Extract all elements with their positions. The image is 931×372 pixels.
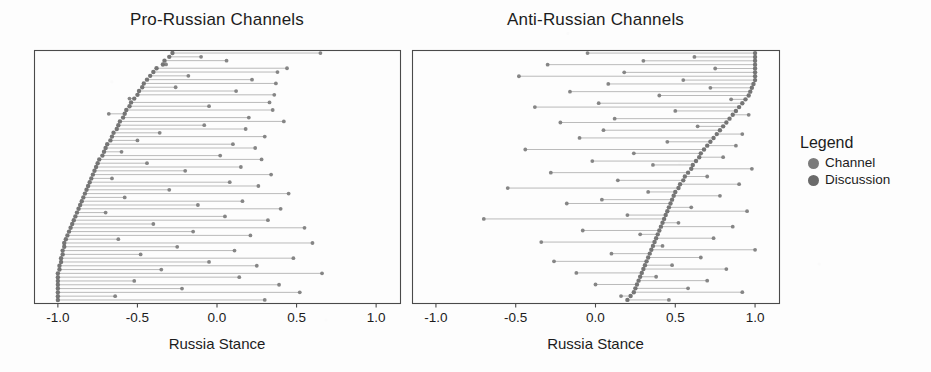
legend-dot-discussion-icon: [808, 175, 819, 186]
figure-canvas: Pro-Russian Channels Anti-Russian Channe…: [0, 0, 931, 372]
x-tick-label: 0.0: [586, 310, 605, 325]
legend-label-discussion: Discussion: [825, 172, 890, 188]
legend-label-channel: Channel: [825, 155, 875, 171]
legend-title: Legend: [800, 134, 925, 152]
legend-dot-channel-icon: [808, 158, 819, 169]
x-tick-label: -1.0: [46, 310, 69, 325]
x-tick-label: -0.5: [126, 310, 149, 325]
x-tick-label: 1.0: [746, 310, 765, 325]
x-tick-label: -1.0: [424, 310, 447, 325]
x-tick-label: 0.5: [666, 310, 685, 325]
x-tick-label: 0.0: [208, 310, 227, 325]
legend: Legend Channel Discussion: [800, 134, 925, 189]
x-tick-label: 1.0: [367, 310, 386, 325]
x-tick-label: -0.5: [504, 310, 527, 325]
x-axis-label-left: Russia Stance: [34, 335, 400, 352]
x-tick-label: 0.5: [287, 310, 306, 325]
x-axis-label-right: Russia Stance: [412, 335, 779, 352]
legend-item-channel: Channel: [808, 155, 925, 171]
legend-item-discussion: Discussion: [808, 172, 925, 188]
